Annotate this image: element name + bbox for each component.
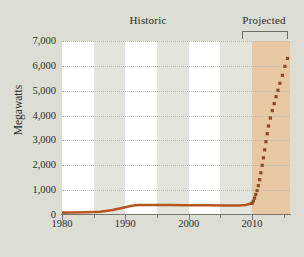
projected-data-point xyxy=(271,109,274,112)
x-tick-label: 2000 xyxy=(169,219,209,230)
projected-data-point xyxy=(286,57,289,60)
x-axis-line xyxy=(61,214,291,215)
projected-data-point xyxy=(266,132,269,135)
data-series-svg xyxy=(62,41,290,215)
projected-data-point xyxy=(281,74,284,77)
historic-era-label: Historic xyxy=(129,14,166,26)
projected-data-point xyxy=(274,95,277,98)
projected-data-point xyxy=(267,124,270,127)
projected-data-point xyxy=(255,189,258,192)
projected-data-point xyxy=(263,148,266,151)
chart-container: Historic Projected Megawatts 7,0006,0005… xyxy=(0,0,304,257)
y-tick-label: 6,000 xyxy=(10,61,56,72)
x-tick-mark xyxy=(157,215,158,218)
projected-data-point xyxy=(253,196,256,199)
projected-data-point xyxy=(252,199,255,202)
projected-data-point xyxy=(262,156,265,159)
projected-data-point xyxy=(254,193,257,196)
y-tick-label: 7,000 xyxy=(10,36,56,47)
x-tick-mark xyxy=(94,215,95,218)
x-tick-label: 1990 xyxy=(105,219,145,230)
y-tick-label: 1,000 xyxy=(10,185,56,196)
y-tick-label: 2,000 xyxy=(10,160,56,171)
plot-area xyxy=(62,41,290,215)
x-tick-mark xyxy=(220,215,221,218)
projected-era-label: Projected xyxy=(242,14,285,26)
projected-data-point xyxy=(264,140,267,143)
projected-data-point xyxy=(257,184,260,187)
projected-data-point xyxy=(259,171,262,174)
projected-data-point xyxy=(278,82,281,85)
y-tick-label: 5,000 xyxy=(10,86,56,97)
x-tick-mark xyxy=(284,215,285,218)
projected-data-point xyxy=(269,116,272,119)
x-tick-label: 2010 xyxy=(232,219,272,230)
y-tick-label: 4,000 xyxy=(10,111,56,122)
x-tick-label: 1980 xyxy=(42,219,82,230)
historic-line xyxy=(62,203,252,212)
projected-data-point xyxy=(283,65,286,68)
projected-data-point xyxy=(261,164,264,167)
projected-data-point xyxy=(258,178,261,181)
projected-data-point xyxy=(273,102,276,105)
projected-data-point xyxy=(276,89,279,92)
y-tick-label: 3,000 xyxy=(10,135,56,146)
projected-bracket xyxy=(242,31,288,39)
